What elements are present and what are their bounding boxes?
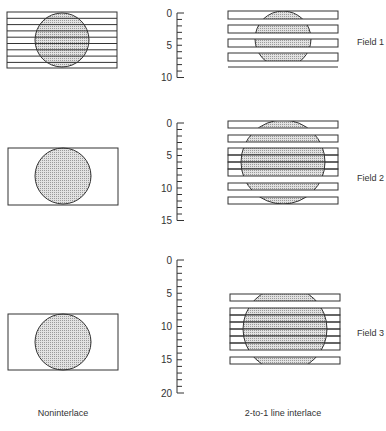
ruler-tick-label: 15: [161, 354, 173, 365]
noninterlace-frame-2: [8, 148, 118, 205]
ruler-tick-label: 5: [166, 40, 172, 51]
ruler-field-3: 05101520: [161, 255, 184, 399]
ruler-tick-label: 5: [166, 288, 172, 299]
field-label: Field 2: [357, 173, 384, 183]
ruler-tick-label: 0: [166, 255, 172, 266]
ruler-tick-label: 0: [166, 8, 172, 19]
field-label: Field 1: [357, 37, 384, 47]
ruler-tick-label: 10: [161, 183, 173, 194]
caption-noninterlace: Noninterlace: [38, 408, 89, 418]
field-label: Field 3: [357, 328, 384, 338]
scan-line-bar: [228, 120, 338, 204]
noninterlace-frame-3: [8, 314, 118, 370]
ruler-tick-label: 10: [161, 72, 173, 83]
ruler-field-2: 051015: [161, 118, 184, 227]
caption-interlace: 2-to-1 line interlace: [245, 408, 322, 418]
interlace-field-1: Field 1: [228, 11, 384, 67]
ruler-tick-label: 15: [161, 215, 173, 226]
noninterlace-frame-1: [7, 12, 117, 68]
ruler-tick-label: 5: [166, 150, 172, 161]
ruler-tick-label: 0: [166, 118, 172, 129]
ruler-tick-label: 10: [161, 321, 173, 332]
ruler-field-1: 0510: [161, 8, 184, 84]
interlace-field-3: Field 3: [230, 287, 384, 371]
ruler-tick-label: 20: [161, 388, 173, 399]
interlace-field-2: Field 2: [228, 120, 384, 204]
interlace-diagram: 0510 051015 05101520 Field 1 Field 2 Fie…: [0, 0, 386, 431]
